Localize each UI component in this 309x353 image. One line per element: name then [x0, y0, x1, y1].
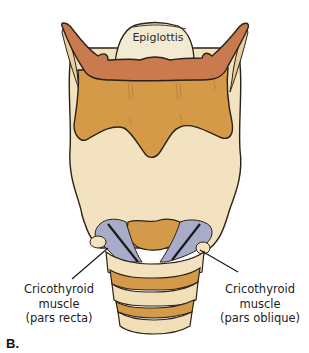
panel-letter: B. [6, 336, 19, 351]
label-line: muscle [212, 297, 308, 312]
larynx-diagram: Epiglottis Cricothyroid muscle (pars rec… [0, 0, 309, 353]
label-line: (pars oblique) [212, 311, 308, 326]
pars-oblique-label: Cricothyroid muscle (pars oblique) [212, 282, 308, 326]
leader-line-right [200, 250, 238, 272]
leader-line-left [72, 248, 108, 279]
epiglottis-label: Epiglottis [128, 31, 188, 46]
label-line: (pars recta) [14, 311, 104, 326]
label-line: muscle [14, 297, 104, 312]
label-line: Cricothyroid [212, 282, 308, 297]
label-line: Cricothyroid [14, 282, 104, 297]
pars-recta-label: Cricothyroid muscle (pars recta) [14, 282, 104, 326]
